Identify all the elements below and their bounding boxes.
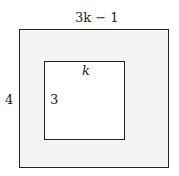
inner-top-label: k — [82, 63, 90, 78]
inner-side-label: 3 — [50, 92, 58, 107]
outer-top-label: 3k − 1 — [75, 10, 119, 25]
outer-side-label: 4 — [5, 92, 13, 107]
